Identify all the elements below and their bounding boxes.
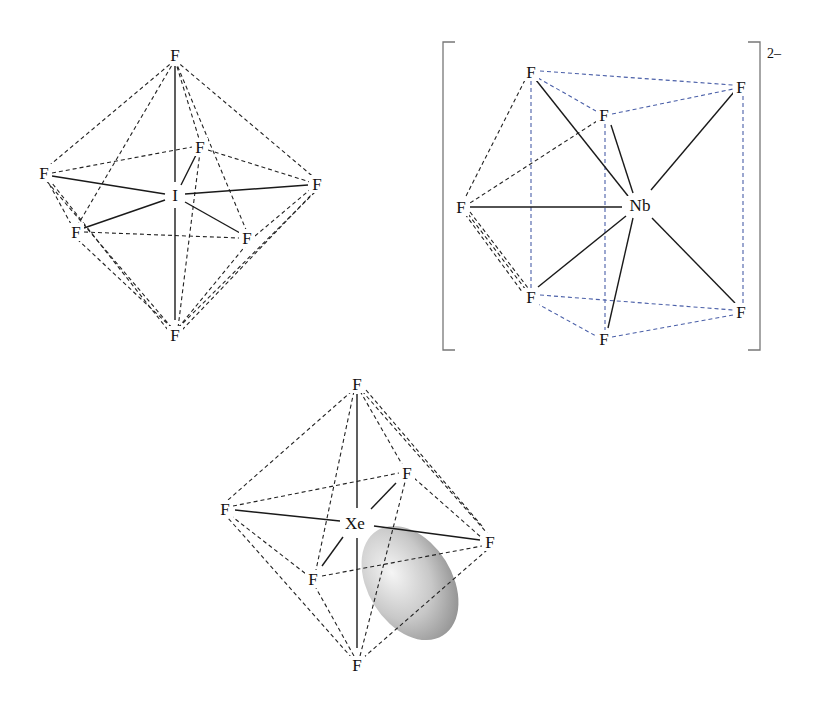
- atom-f: F: [352, 656, 361, 675]
- atom-f: F: [736, 303, 745, 322]
- atom-f: F: [402, 464, 411, 483]
- atom-f: F: [312, 175, 321, 194]
- molecular-geometry-figure: F F F I F F F F 2–: [0, 0, 839, 701]
- atom-f: F: [71, 223, 80, 242]
- atom-f: F: [599, 330, 608, 349]
- atom-f: F: [599, 106, 608, 125]
- atom-niobium: Nb: [630, 196, 651, 215]
- atom-f: F: [526, 288, 535, 307]
- if7-molecule: F F F I F F F F: [36, 46, 325, 345]
- atom-f: F: [220, 500, 229, 519]
- atom-f: F: [170, 326, 179, 345]
- atom-f: F: [352, 375, 361, 394]
- atom-xenon: Xe: [345, 514, 365, 533]
- atom-f: F: [39, 164, 48, 183]
- nbf8-ion: 2–: [443, 42, 782, 350]
- atom-f: F: [242, 229, 251, 248]
- atom-f: F: [456, 198, 465, 217]
- atom-f: F: [195, 138, 204, 157]
- atom-f: F: [736, 78, 745, 97]
- nbf8-atoms: F F F F Nb F F F: [453, 63, 749, 349]
- atom-f: F: [170, 46, 179, 65]
- atom-f: F: [526, 63, 535, 82]
- atom-f: F: [308, 570, 317, 589]
- if7-atoms: F F F I F F F F: [36, 46, 325, 345]
- xef6-molecule: F F F Xe F F F: [217, 375, 498, 675]
- atom-f: F: [485, 533, 494, 552]
- atom-iodine: I: [172, 186, 178, 205]
- ion-charge-label: 2–: [767, 46, 782, 61]
- nbf8-brackets: [443, 42, 760, 350]
